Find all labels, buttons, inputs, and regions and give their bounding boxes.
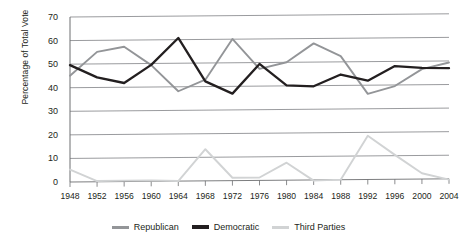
x-tick-label-1956: 1956 bbox=[109, 191, 139, 201]
series-line-third-parties bbox=[70, 136, 449, 181]
gridline-60 bbox=[70, 37, 449, 40]
legend-label-democratic: Democratic bbox=[214, 222, 260, 232]
gridline-20 bbox=[70, 132, 449, 135]
chart-legend: Republican Democratic Third Parties bbox=[0, 222, 457, 232]
legend-swatch-third-parties bbox=[272, 226, 289, 229]
x-tick-label-2000: 2000 bbox=[407, 191, 437, 201]
x-tick-label-1948: 1948 bbox=[55, 191, 85, 201]
gridline-10 bbox=[70, 155, 449, 158]
gridlines bbox=[70, 14, 449, 182]
x-tick-label-1964: 1964 bbox=[163, 191, 193, 201]
x-tick-label-1996: 1996 bbox=[380, 191, 410, 201]
x-tick-label-1984: 1984 bbox=[299, 191, 329, 201]
legend-swatch-republican bbox=[112, 226, 129, 229]
x-tick-label-1976: 1976 bbox=[245, 191, 275, 201]
x-tick-label-1980: 1980 bbox=[272, 191, 302, 201]
x-tick-label-2004: 2004 bbox=[434, 191, 463, 201]
x-tick-label-1988: 1988 bbox=[326, 191, 356, 201]
legend-swatch-democratic bbox=[192, 225, 209, 229]
x-tick-label-1960: 1960 bbox=[136, 191, 166, 201]
gridline-70 bbox=[70, 14, 449, 17]
x-tick-label-1968: 1968 bbox=[190, 191, 220, 201]
x-tick-label-1972: 1972 bbox=[217, 191, 247, 201]
legend-item-republican[interactable]: Republican bbox=[112, 222, 179, 232]
legend-item-democratic[interactable]: Democratic bbox=[192, 222, 260, 232]
legend-label-republican: Republican bbox=[134, 222, 179, 232]
x-tick-label-1952: 1952 bbox=[82, 191, 112, 201]
legend-label-third-parties: Third Parties bbox=[294, 222, 345, 232]
gridline-30 bbox=[70, 108, 449, 111]
legend-item-third-parties[interactable]: Third Parties bbox=[272, 222, 345, 232]
x-tick-label-1992: 1992 bbox=[353, 191, 383, 201]
